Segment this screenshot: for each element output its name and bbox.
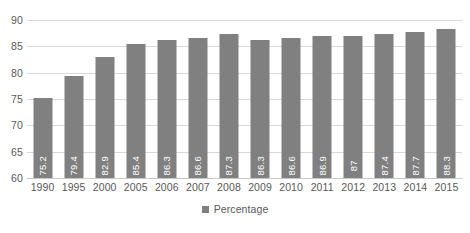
bar-value-label: 86.6 xyxy=(286,156,296,175)
bar-2012[interactable]: 87 xyxy=(344,36,363,178)
bar-slot: 87.3 xyxy=(213,20,244,178)
bar-value-label: 82.9 xyxy=(100,156,110,175)
gridline-60 xyxy=(27,178,462,179)
x-axis-tick-label-2012: 2012 xyxy=(341,181,365,193)
bar-chart: 60657075808590 75.279.482.985.486.386.68… xyxy=(0,0,470,233)
bar-2009[interactable]: 86.3 xyxy=(251,40,270,179)
y-axis-tick-label: 90 xyxy=(11,14,23,26)
bars-layer: 75.279.482.985.486.386.687.386.386.686.9… xyxy=(27,20,462,178)
x-axis-tick-label-2006: 2006 xyxy=(155,181,179,193)
x-axis-tick-label-1990: 1990 xyxy=(31,181,55,193)
y-axis-tick-label: 70 xyxy=(11,119,23,131)
bar-2015[interactable]: 88.3 xyxy=(437,29,456,178)
legend-label-percentage: Percentage xyxy=(214,203,269,215)
y-axis-tick-label: 80 xyxy=(11,67,23,79)
bar-slot: 87.7 xyxy=(400,20,431,178)
x-axis: 1990199520002005200620072008200920102011… xyxy=(27,181,462,197)
bar-2010[interactable]: 86.6 xyxy=(282,38,301,178)
bar-value-label: 79.4 xyxy=(69,156,79,175)
bar-value-label: 86.3 xyxy=(162,156,172,175)
x-axis-tick-label-2013: 2013 xyxy=(372,181,396,193)
legend-swatch-percentage xyxy=(202,206,209,213)
x-axis-tick-label-2005: 2005 xyxy=(124,181,148,193)
bar-2007[interactable]: 86.6 xyxy=(188,38,207,178)
bar-slot: 86.6 xyxy=(182,20,213,178)
bar-value-label: 87.3 xyxy=(224,156,234,175)
x-axis-tick-label-2010: 2010 xyxy=(279,181,303,193)
bar-slot: 88.3 xyxy=(431,20,462,178)
x-axis-tick-label-2007: 2007 xyxy=(186,181,210,193)
x-axis-tick-label-1995: 1995 xyxy=(62,181,86,193)
x-axis-tick-label-2015: 2015 xyxy=(435,181,459,193)
bar-2011[interactable]: 86.9 xyxy=(313,36,332,178)
bar-slot: 86.3 xyxy=(151,20,182,178)
bar-2000[interactable]: 82.9 xyxy=(95,57,114,178)
x-axis-tick-label-2000: 2000 xyxy=(93,181,117,193)
y-axis-tick-label: 85 xyxy=(11,40,23,52)
bar-slot: 86.6 xyxy=(276,20,307,178)
bar-2008[interactable]: 87.3 xyxy=(219,34,238,178)
bar-value-label: 87.4 xyxy=(380,156,390,175)
bar-slot: 79.4 xyxy=(58,20,89,178)
x-axis-tick-label-2008: 2008 xyxy=(217,181,241,193)
bar-slot: 85.4 xyxy=(120,20,151,178)
x-axis-tick-label-2009: 2009 xyxy=(248,181,272,193)
bar-value-label: 75.2 xyxy=(38,156,48,175)
y-axis: 60657075808590 xyxy=(0,20,23,178)
bar-slot: 86.3 xyxy=(245,20,276,178)
bar-2006[interactable]: 86.3 xyxy=(157,40,176,179)
bar-2013[interactable]: 87.4 xyxy=(375,34,394,178)
bar-value-label: 86.6 xyxy=(193,156,203,175)
y-axis-tick-label: 60 xyxy=(11,172,23,184)
bar-value-label: 88.3 xyxy=(442,156,452,175)
x-axis-tick-label-2014: 2014 xyxy=(404,181,428,193)
bar-slot: 86.9 xyxy=(307,20,338,178)
bar-value-label: 86.9 xyxy=(317,156,327,175)
bar-1990[interactable]: 75.2 xyxy=(33,98,52,178)
bar-slot: 75.2 xyxy=(27,20,58,178)
bar-2005[interactable]: 85.4 xyxy=(126,44,145,178)
bar-slot: 87 xyxy=(338,20,369,178)
bar-value-label: 87.7 xyxy=(411,156,421,175)
bar-slot: 82.9 xyxy=(89,20,120,178)
bar-1995[interactable]: 79.4 xyxy=(64,76,83,178)
bar-slot: 87.4 xyxy=(369,20,400,178)
bar-2014[interactable]: 87.7 xyxy=(406,32,425,178)
bar-value-label: 87 xyxy=(348,160,358,171)
bar-value-label: 85.4 xyxy=(131,156,141,175)
x-axis-tick-label-2011: 2011 xyxy=(311,181,334,193)
bar-value-label: 86.3 xyxy=(255,156,265,175)
y-axis-tick-label: 75 xyxy=(11,93,23,105)
chart-legend: Percentage xyxy=(0,203,470,215)
y-axis-tick-label: 65 xyxy=(11,146,23,158)
